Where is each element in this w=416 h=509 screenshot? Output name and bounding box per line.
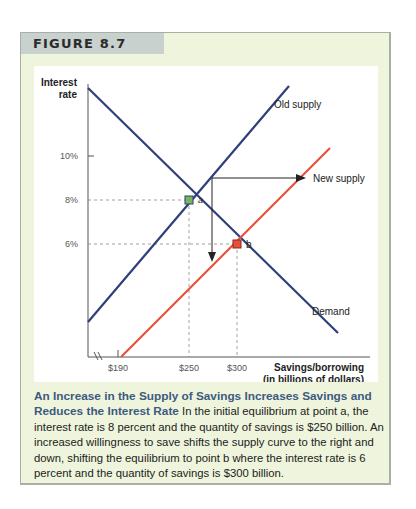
- figure-frame: FIGURE 8.7: [20, 32, 391, 485]
- supply-demand-chart: Interest rate 10% 8% 6% $190 $250 $300 S…: [34, 66, 378, 382]
- x-tick-label-190: $190: [108, 363, 128, 373]
- y-tick-label-10: 10%: [60, 151, 78, 161]
- axis-break-icon: [94, 352, 102, 360]
- figure-title-tab: FIGURE 8.7: [21, 33, 164, 54]
- y-tick-label-6: 6%: [65, 239, 78, 249]
- point-a-label: a: [198, 195, 203, 205]
- demand-label: Demand: [312, 306, 350, 317]
- x-axis-label-line2: (in billions of dollars): [263, 374, 364, 382]
- figure-title: FIGURE 8.7: [33, 36, 126, 51]
- shift-right-arrow: [212, 174, 306, 182]
- y-axis-label-line2: rate: [59, 89, 78, 100]
- point-a-marker: [185, 196, 193, 204]
- new-supply-label: New supply: [313, 173, 365, 184]
- y-tick-label-8: 8%: [65, 195, 78, 205]
- old-supply-label: Old supply: [274, 99, 321, 110]
- chart-panel: Interest rate 10% 8% 6% $190 $250 $300 S…: [34, 66, 378, 382]
- y-axis-label-line1: Interest: [41, 77, 78, 88]
- x-tick-label-250: $250: [179, 363, 199, 373]
- figure-caption: An Increase in the Supply of Savings Inc…: [34, 389, 384, 481]
- x-axis-label-line1: Savings/borrowing: [274, 362, 364, 373]
- point-b-marker: [233, 240, 241, 248]
- x-tick-label-300: $300: [227, 363, 247, 373]
- shift-down-arrow: [208, 178, 216, 262]
- point-b-label: b: [246, 239, 252, 250]
- demand-curve: [88, 88, 338, 333]
